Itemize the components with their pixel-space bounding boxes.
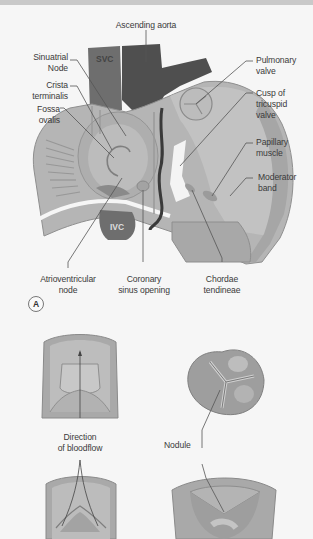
label-ivc: IVC xyxy=(110,222,124,232)
valve-top-view xyxy=(188,350,264,415)
label-moderator-band: Moderator band xyxy=(258,172,296,194)
label-cusp-tricuspid-valve: Cusp of tricuspid valve xyxy=(256,88,287,121)
label-atrioventricular-node: Atrioventricular node xyxy=(28,274,108,296)
label-crista-terminalis: Crista terminalis xyxy=(4,80,68,102)
panel-a-badge: A xyxy=(28,296,44,312)
label-fossa-ovalis: Fossa ovalis xyxy=(4,104,60,126)
valve-closed-side-view xyxy=(46,460,116,539)
label-chordae-tendineae: Chordae tendineae xyxy=(190,274,254,296)
heart-diagram xyxy=(33,44,293,264)
label-nodule: Nodule xyxy=(164,440,191,451)
label-ascending-aorta: Ascending aorta xyxy=(100,20,192,31)
valve-cusp-view xyxy=(172,478,276,539)
label-pulmonary-valve: Pulmonary valve xyxy=(256,55,296,77)
valve-open-side-view xyxy=(42,335,118,419)
label-sinuatrial-node: Sinuatrial Node xyxy=(4,52,68,74)
label-direction-of-bloodflow: Direction of bloodflow xyxy=(40,432,120,454)
label-svc: SVC xyxy=(96,54,113,64)
label-papillary-muscle: Papillary muscle xyxy=(256,137,288,159)
label-coronary-sinus-opening: Coronary sinus opening xyxy=(104,274,184,296)
